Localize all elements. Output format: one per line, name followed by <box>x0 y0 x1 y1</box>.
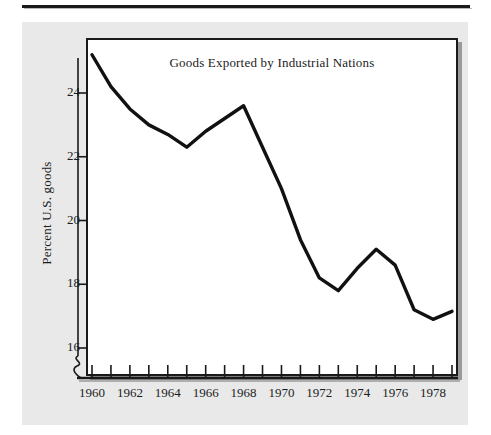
axis-break-squiggle <box>74 356 81 378</box>
y-tick-marks <box>78 58 87 356</box>
data-series-line <box>92 55 452 320</box>
axis-break-symbol <box>74 356 81 378</box>
x-tick-marks <box>77 365 460 381</box>
chart-svg-layer <box>0 0 491 435</box>
